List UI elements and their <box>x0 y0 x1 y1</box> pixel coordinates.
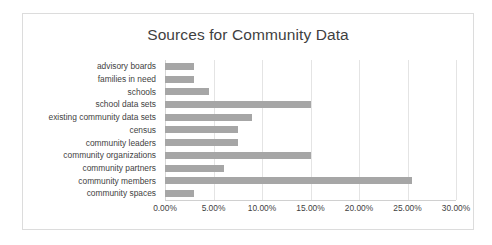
bar-community-members[interactable] <box>165 177 412 184</box>
category-label: census <box>129 126 161 134</box>
bar-row <box>165 85 456 98</box>
x-axis-tick-labels: 0.00%5.00%10.00%15.00%20.00%25.00%30.00% <box>165 204 456 220</box>
category-label: existing community data sets <box>48 113 161 121</box>
category-label-row: community partners <box>23 162 161 175</box>
bar-census[interactable] <box>165 126 238 133</box>
bar-row <box>165 60 456 73</box>
category-axis: advisory boardsfamilies in needschoolssc… <box>23 60 161 200</box>
category-label-row: community spaces <box>23 187 161 200</box>
bar-schools[interactable] <box>165 88 209 95</box>
gridline-30.00% <box>456 60 457 200</box>
bar-row <box>165 175 456 188</box>
category-label-row: existing community data sets <box>23 111 161 124</box>
category-label: community leaders <box>86 139 161 147</box>
category-label: community members <box>78 177 161 185</box>
category-label-row: community organizations <box>23 149 161 162</box>
bar-advisory-boards[interactable] <box>165 63 194 70</box>
category-label: schools <box>128 88 161 96</box>
chart-container: Sources for Community Data advisory boar… <box>22 13 474 230</box>
x-tick-label: 0.00% <box>153 204 177 212</box>
x-tick-label: 20.00% <box>345 204 373 212</box>
category-label: community partners <box>82 164 161 172</box>
category-label: advisory boards <box>97 62 161 70</box>
x-tick-label: 10.00% <box>248 204 276 212</box>
x-tick-label: 25.00% <box>393 204 421 212</box>
bar-existing-community-data-sets[interactable] <box>165 114 252 121</box>
bar-row <box>165 149 456 162</box>
x-tick-label: 5.00% <box>202 204 226 212</box>
category-label-row: families in need <box>23 73 161 86</box>
bar-community-spaces[interactable] <box>165 190 194 197</box>
category-label-row: schools <box>23 85 161 98</box>
bar-row <box>165 162 456 175</box>
bar-school-data-sets[interactable] <box>165 101 311 108</box>
bar-families-in-need[interactable] <box>165 76 194 83</box>
category-label-row: school data sets <box>23 98 161 111</box>
category-label-row: advisory boards <box>23 60 161 73</box>
bar-community-leaders[interactable] <box>165 139 238 146</box>
category-label: school data sets <box>95 100 161 108</box>
bar-row <box>165 98 456 111</box>
bar-community-partners[interactable] <box>165 165 224 172</box>
bar-series <box>165 60 456 200</box>
x-tick-label: 30.00% <box>442 204 470 212</box>
bar-community-organizations[interactable] <box>165 152 311 159</box>
x-tick-label: 15.00% <box>296 204 324 212</box>
category-label: families in need <box>98 75 161 83</box>
bar-row <box>165 187 456 200</box>
plot-area <box>165 60 456 200</box>
category-label-row: census <box>23 124 161 137</box>
bar-row <box>165 124 456 137</box>
category-label: community spaces <box>87 189 161 197</box>
category-label: community organizations <box>63 151 161 159</box>
category-label-row: community members <box>23 175 161 188</box>
category-label-row: community leaders <box>23 136 161 149</box>
x-axis-line <box>165 200 456 201</box>
bar-row <box>165 136 456 149</box>
chart-title: Sources for Community Data <box>23 26 473 44</box>
bar-row <box>165 111 456 124</box>
bar-row <box>165 73 456 86</box>
